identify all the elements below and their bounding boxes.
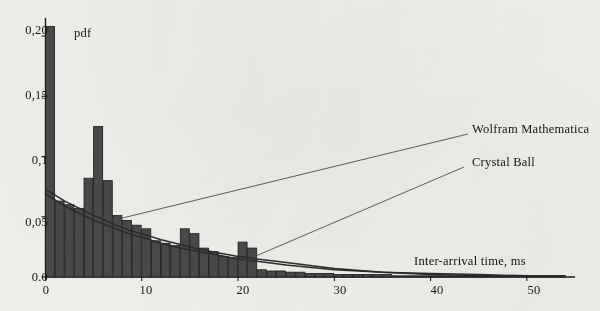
histogram-bar <box>180 229 189 277</box>
x-tick-label-4: 40 <box>426 283 448 298</box>
histogram-bar <box>151 241 160 277</box>
histogram-bar <box>84 178 93 277</box>
x-axis-title-label: Inter-arrival time, ms <box>414 254 526 269</box>
histogram-bar <box>411 276 420 277</box>
histogram-bar <box>171 246 180 277</box>
histogram-bar <box>65 205 74 277</box>
x-tick-label-2: 20 <box>232 283 254 298</box>
x-tick-label-3: 30 <box>329 283 351 298</box>
histogram-bar <box>392 276 401 277</box>
y-tick-label-0: 0,20 <box>4 23 48 38</box>
y-tick-label-3: 0,05 <box>4 215 48 230</box>
x-tick-label-0: 0 <box>35 283 57 298</box>
x-tick-label-1: 10 <box>135 283 157 298</box>
histogram-bar <box>344 275 353 277</box>
y-tick-label-1: 0,15 <box>4 88 48 103</box>
y-axis-name-label: pdf <box>74 26 91 41</box>
histogram-bars <box>46 26 565 277</box>
y-tick-label-2: 0,1 <box>4 153 48 168</box>
histogram-bar <box>354 275 363 277</box>
histogram-bar <box>440 276 449 277</box>
histogram-bar <box>402 276 411 277</box>
histogram-bar <box>315 273 324 277</box>
histogram-bar <box>325 273 334 277</box>
histogram-bar <box>248 248 257 277</box>
histogram-bar <box>161 243 170 277</box>
histogram-bar <box>421 276 430 277</box>
histogram-bar <box>267 271 276 277</box>
histogram-bar <box>373 275 382 277</box>
annotation-label-crystal-ball: Crystal Ball <box>472 155 535 170</box>
annotation-label-wolfram-mathematica: Wolfram Mathematica <box>472 122 589 137</box>
histogram-bar <box>431 276 440 277</box>
figure-canvas: 0,20 0,15 0,1 0,05 0.0 0 10 20 30 40 50 … <box>0 0 600 311</box>
histogram-bar <box>382 275 391 277</box>
histogram-bar <box>363 275 372 277</box>
histogram-bar <box>190 234 199 277</box>
histogram-bar <box>103 181 112 277</box>
histogram-bar <box>46 26 55 277</box>
x-tick-label-5: 50 <box>523 283 545 298</box>
histogram-bar <box>286 272 295 277</box>
histogram-bar <box>277 271 286 277</box>
histogram-bar <box>74 208 83 277</box>
histogram-bar <box>305 273 314 277</box>
histogram-bar <box>55 201 64 277</box>
histogram-bar <box>219 257 228 277</box>
histogram-bar <box>334 275 343 277</box>
histogram-bar <box>296 272 305 277</box>
histogram-bar <box>94 126 103 277</box>
histogram-bar <box>257 270 266 277</box>
leader-line-wolfram-mathematica <box>110 134 468 221</box>
